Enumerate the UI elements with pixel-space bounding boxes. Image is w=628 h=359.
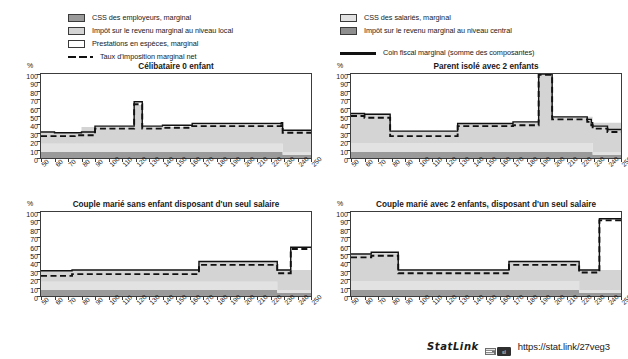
x-axis-tick (581, 159, 582, 162)
x-axis-tick (271, 297, 272, 300)
x-axis-tick (203, 297, 204, 300)
y-axis-tick (347, 99, 350, 100)
x-axis-tick (567, 297, 568, 300)
x-axis-tick (217, 159, 218, 162)
panel-title: Couple marié sans enfant disposant d'un … (40, 200, 312, 210)
x-axis-tick (149, 159, 150, 162)
legend-label-net-marginal-rate: Taux d'imposition marginal net (100, 53, 196, 61)
legend-item-local-income-tax: Impôt sur le revenu marginal au niveau l… (68, 25, 233, 37)
y-axis-tick (347, 141, 350, 142)
x-axis-tick (136, 297, 137, 300)
plot-area (40, 211, 312, 297)
dashed-line-icon (68, 53, 93, 61)
x-axis-tick (284, 297, 285, 300)
x-axis-tick (122, 159, 123, 162)
y-axis-tick (37, 141, 40, 142)
x-axis-tick (540, 297, 541, 300)
x-axis-tick (95, 297, 96, 300)
x-axis-tick (446, 297, 447, 300)
y-axis-tick (347, 220, 350, 221)
x-axis-tick (217, 297, 218, 300)
x-axis-tick (405, 159, 406, 162)
y-axis-tick (37, 271, 40, 272)
x-axis-tick (405, 297, 406, 300)
x-axis-tick (527, 159, 528, 162)
x-axis-tick (378, 159, 379, 162)
legend-item-central-income-tax: Impôt sur le revenu marginal au niveau c… (340, 25, 535, 37)
y-axis-tick (347, 133, 350, 134)
x-axis-tick (459, 297, 460, 300)
x-axis-tick (244, 297, 245, 300)
x-axis-tick (257, 297, 258, 300)
y-axis-labels: 0102030405060708090100 (324, 207, 348, 299)
x-axis-tick (190, 297, 191, 300)
legend-label-employee-css: CSS des salariés, marginal (364, 14, 451, 22)
x-axis-tick (540, 159, 541, 162)
y-axis-tick (347, 262, 350, 263)
panel-title: Célibataire 0 enfant (40, 62, 312, 72)
y-axis-tick (347, 279, 350, 280)
x-axis-tick (513, 159, 514, 162)
plot-area (350, 211, 622, 297)
x-axis-tick (446, 159, 447, 162)
y-axis-tick (347, 91, 350, 92)
y-axis-tick (347, 116, 350, 117)
y-axis-tick (37, 262, 40, 263)
y-axis-tick (37, 212, 40, 213)
x-axis-tick (136, 159, 137, 162)
x-axis-tick (594, 297, 595, 300)
y-axis-tick (347, 150, 350, 151)
y-axis-tick (37, 220, 40, 221)
x-axis-tick (95, 159, 96, 162)
chart-panel-single-parent-two-children: % Parent isolé avec 2 enfants 0102030405… (316, 62, 624, 195)
y-axis-labels: 0102030405060708090100 (14, 69, 38, 161)
x-axis-tick (149, 297, 150, 300)
legend-item-employee-css: CSS des salariés, marginal (340, 12, 535, 24)
legend-label-employer-css: CSS des employeurs, marginal (92, 14, 191, 22)
legend-label-cash-benefits: Prestations en espèces, marginal (92, 40, 198, 48)
x-axis-tick (486, 297, 487, 300)
chart-panel-couple-two-children: % Couple marié avec 2 enfants, disposant… (316, 200, 624, 333)
x-axis-tick (176, 297, 177, 300)
legend-swatch-local-income-tax (68, 27, 85, 35)
x-axis-tick (473, 159, 474, 162)
y-axis-tick (37, 150, 40, 151)
y-axis-tick (37, 124, 40, 125)
y-axis-tick (347, 229, 350, 230)
legend-label-local-income-tax: Impôt sur le revenu marginal au niveau l… (92, 27, 233, 35)
legend-column-right: CSS des salariés, marginal Impôt sur le … (340, 12, 535, 60)
y-axis-tick (37, 279, 40, 280)
x-axis-tick (298, 159, 299, 162)
area-series (351, 74, 621, 152)
x-axis-tick (55, 159, 56, 162)
legend-swatch-employer-css (68, 14, 85, 22)
y-axis-tick (347, 108, 350, 109)
y-axis-tick (37, 254, 40, 255)
y-axis-tick (37, 246, 40, 247)
x-axis-tick (513, 297, 514, 300)
x-axis-tick (163, 159, 164, 162)
y-axis-tick (37, 296, 40, 297)
y-axis-tick (347, 296, 350, 297)
x-axis-tick (567, 159, 568, 162)
y-axis-labels: 0102030405060708090100 (324, 69, 348, 161)
x-axis-tick (554, 297, 555, 300)
x-axis-tick (109, 297, 110, 300)
x-axis-tick (608, 297, 609, 300)
x-axis-tick (230, 159, 231, 162)
x-axis-tick (621, 297, 622, 300)
svg-text:sl: sl (502, 348, 506, 354)
y-axis-tick (37, 99, 40, 100)
x-axis-tick (594, 159, 595, 162)
x-axis-tick (109, 159, 110, 162)
y-axis-tick (347, 212, 350, 213)
x-axis-tick (55, 297, 56, 300)
x-axis-tick (486, 159, 487, 162)
legend-label-marginal-tax-wedge: Coin fiscal marginal (somme des composan… (383, 49, 535, 57)
y-axis-tick (347, 246, 350, 247)
x-axis-tick (68, 159, 69, 162)
y-axis-tick (37, 237, 40, 238)
y-axis-tick (37, 74, 40, 75)
y-axis-tick (347, 254, 350, 255)
y-axis-tick (37, 229, 40, 230)
